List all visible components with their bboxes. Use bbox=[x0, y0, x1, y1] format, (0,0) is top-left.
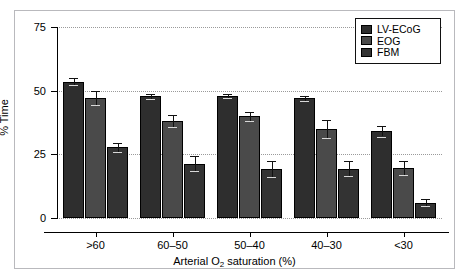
x-tick-label: 50–40 bbox=[234, 240, 265, 251]
error-bar bbox=[250, 112, 251, 121]
bar[interactable] bbox=[63, 82, 84, 218]
error-bar-cap bbox=[245, 121, 254, 122]
error-bar-cap bbox=[113, 143, 122, 144]
error-bar-cap bbox=[168, 115, 177, 116]
legend-item-label: EOG bbox=[377, 36, 400, 47]
error-bar bbox=[173, 115, 174, 127]
error-bar-cap bbox=[300, 101, 309, 102]
error-bar-cap bbox=[377, 126, 386, 127]
error-bar bbox=[426, 199, 427, 206]
bar[interactable] bbox=[107, 147, 128, 218]
error-bar-cap bbox=[300, 96, 309, 97]
y-tick-mark bbox=[51, 154, 57, 155]
bar[interactable] bbox=[85, 98, 106, 218]
error-bar bbox=[96, 91, 97, 105]
bar-group bbox=[288, 27, 365, 218]
x-axis-title: Arterial O2 saturation (%) bbox=[0, 256, 469, 267]
error-bar-cap bbox=[267, 161, 276, 162]
legend-item-label: LV-ECoG bbox=[377, 24, 421, 35]
y-tick-mark bbox=[51, 27, 57, 28]
error-bar-cap bbox=[399, 161, 408, 162]
bar[interactable] bbox=[371, 131, 392, 218]
error-bar bbox=[195, 156, 196, 171]
error-bar-cap bbox=[69, 78, 78, 79]
legend-item[interactable]: LV-ECoG bbox=[361, 24, 435, 35]
x-axis-title-subscript: 2 bbox=[220, 260, 224, 269]
error-bar-cap bbox=[322, 120, 331, 121]
error-bar bbox=[349, 161, 350, 176]
bar[interactable] bbox=[316, 129, 337, 218]
error-bar bbox=[118, 143, 119, 152]
x-tick-label: 60–50 bbox=[157, 240, 188, 251]
error-bar-cap bbox=[91, 105, 100, 106]
bar[interactable] bbox=[294, 98, 315, 218]
bar[interactable] bbox=[239, 116, 260, 218]
error-bar bbox=[404, 161, 405, 175]
x-tick-label: 40–30 bbox=[311, 240, 342, 251]
x-tick-mark bbox=[404, 232, 405, 237]
legend-item[interactable]: FBM bbox=[361, 47, 435, 58]
y-tick-label: 0 bbox=[16, 213, 46, 224]
y-tick-label: 75 bbox=[16, 22, 46, 33]
error-bar-cap bbox=[190, 156, 199, 157]
bar-group bbox=[134, 27, 211, 218]
y-axis-title: % Time bbox=[0, 99, 10, 136]
x-axis-title-pre: Arterial O bbox=[173, 255, 219, 267]
error-bar-cap bbox=[267, 177, 276, 178]
error-bar-cap bbox=[399, 175, 408, 176]
error-bar-cap bbox=[223, 94, 232, 95]
x-axis-line bbox=[44, 232, 449, 233]
bar[interactable] bbox=[140, 96, 161, 218]
x-axis-title-post: saturation (%) bbox=[224, 255, 296, 267]
figure-container: 0255075 % Time >6060–5050–4040–30<30 Art… bbox=[0, 0, 469, 279]
error-bar-cap bbox=[245, 112, 254, 113]
error-bar-cap bbox=[146, 94, 155, 95]
y-tick-mark bbox=[51, 91, 57, 92]
gridline bbox=[57, 218, 442, 219]
x-tick-mark bbox=[173, 232, 174, 237]
error-bar-cap bbox=[344, 176, 353, 177]
error-bar-cap bbox=[421, 206, 430, 207]
bar-group bbox=[211, 27, 288, 218]
error-bar-cap bbox=[223, 98, 232, 99]
error-bar bbox=[327, 120, 328, 137]
error-bar-cap bbox=[377, 137, 386, 138]
error-bar-cap bbox=[421, 199, 430, 200]
y-tick-label: 50 bbox=[16, 86, 46, 97]
y-axis-spine bbox=[57, 27, 58, 219]
legend-swatch-icon bbox=[361, 36, 372, 45]
legend-item-label: FBM bbox=[377, 47, 399, 58]
legend-item[interactable]: EOG bbox=[361, 36, 435, 47]
error-bar-cap bbox=[91, 91, 100, 92]
x-tick-mark bbox=[250, 232, 251, 237]
error-bar-cap bbox=[69, 85, 78, 86]
bar[interactable] bbox=[162, 121, 183, 218]
x-tick-label: >60 bbox=[86, 240, 105, 251]
error-bar-cap bbox=[146, 99, 155, 100]
legend-swatch-icon bbox=[361, 48, 372, 57]
y-tick-label: 25 bbox=[16, 149, 46, 160]
y-tick-mark bbox=[51, 218, 57, 219]
error-bar-cap bbox=[322, 138, 331, 139]
x-tick-label: <30 bbox=[394, 240, 413, 251]
error-bar-cap bbox=[113, 152, 122, 153]
error-bar-cap bbox=[190, 171, 199, 172]
error-bar-cap bbox=[168, 127, 177, 128]
bar-group bbox=[57, 27, 134, 218]
error-bar bbox=[382, 126, 383, 136]
error-bar-cap bbox=[344, 161, 353, 162]
error-bar bbox=[272, 161, 273, 176]
legend-swatch-icon bbox=[361, 25, 372, 34]
x-tick-mark bbox=[327, 232, 328, 237]
bar[interactable] bbox=[217, 96, 238, 218]
chart-legend: LV-ECoGEOGFBM bbox=[355, 18, 441, 64]
x-tick-mark bbox=[96, 232, 97, 237]
